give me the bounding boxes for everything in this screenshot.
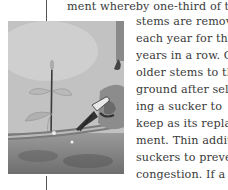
body-text-line-10: suckers to prevent (136, 151, 228, 165)
pruning-shears-illustration (8, 21, 124, 174)
body-text-line-11: congestion. If a shr (136, 168, 228, 182)
body-text-line-8: keep as its replace- (136, 117, 228, 131)
body-text-line-1: ment whereby one-third of the old (67, 0, 228, 14)
callout-leader-line-bottom (46, 176, 47, 190)
body-text-line-5: older stems to the (136, 66, 228, 80)
body-text-line-2: stems are removed (136, 15, 228, 29)
body-text-line-7: ing a sucker to (136, 100, 222, 114)
pruning-photo (8, 21, 124, 174)
body-text-line-4: years in a row. Cut (136, 49, 228, 63)
body-text-line-9: ment. Thin addition (136, 134, 228, 148)
body-text-line-6: ground after select (136, 83, 228, 97)
body-text-line-3: each year for three (136, 32, 228, 46)
callout-leader-line-top (46, 0, 47, 21)
